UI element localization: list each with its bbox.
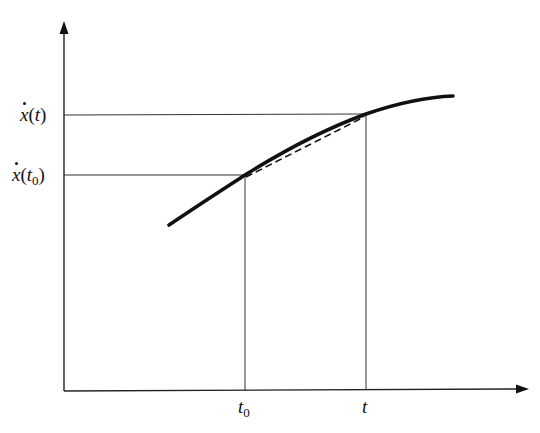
guide-horizontal-xdot-t [64, 114, 366, 115]
x-label-t0: t0 [238, 397, 250, 419]
x-axis [64, 389, 518, 391]
y-label-close: ) [40, 104, 46, 125]
y-label-var: x [12, 165, 20, 184]
y-axis-arrow-icon [60, 21, 69, 34]
y-label-close: ) [39, 164, 45, 185]
secant-chord [246, 117, 364, 177]
x-label-t: t [362, 397, 367, 416]
diagram-canvas [0, 0, 540, 433]
velocity-curve [169, 96, 453, 225]
x-label-sub: 0 [243, 405, 250, 420]
y-label-xdot-t0: x(t0) [12, 165, 45, 187]
x-axis-arrow-icon [516, 385, 529, 394]
y-label-var: x [20, 105, 28, 124]
x-label-var: t [362, 396, 367, 417]
y-label-xdot-t: x(t) [20, 105, 46, 124]
